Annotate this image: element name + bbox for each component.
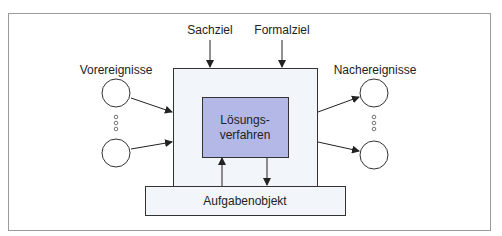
loesungsverfahren-label-2: verfahren — [220, 128, 271, 142]
loesungsverfahren-label-1: Lösungs- — [220, 113, 269, 127]
formalziel-label: Formalziel — [254, 23, 309, 37]
sachziel-label: Sachziel — [187, 23, 232, 37]
nachereignisse-label: Nachereignisse — [334, 63, 417, 77]
vorereignis-circle-2 — [102, 139, 130, 167]
vorereignis-circle-1 — [102, 79, 130, 107]
nachereignis-circle-2 — [360, 141, 388, 169]
nachereignis-circle-1 — [360, 79, 388, 107]
vorereignisse-label: Vorereignisse — [80, 63, 153, 77]
aufgabenobjekt-label: Aufgabenobjekt — [203, 194, 287, 208]
diagram-canvas: Lösungs- verfahren Aufgabenobjekt Sachzi… — [0, 0, 502, 236]
